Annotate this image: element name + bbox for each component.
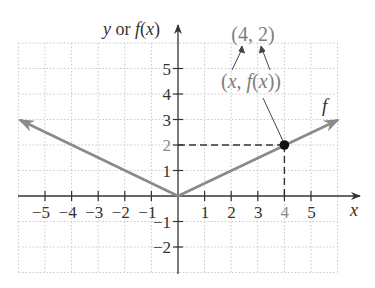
point-annotation: (4, 2) bbox=[231, 23, 274, 46]
x-tick-label: −4 bbox=[59, 203, 78, 222]
axes bbox=[18, 25, 360, 274]
x-tick-label-highlighted: 4 bbox=[281, 203, 290, 222]
y-tick-label: 1 bbox=[163, 162, 172, 181]
y-tick-label: 5 bbox=[163, 60, 172, 79]
arrowhead-icon bbox=[260, 46, 266, 53]
x-tick-label: 5 bbox=[307, 203, 316, 222]
x-tick-label: −2 bbox=[112, 203, 130, 222]
function-curve bbox=[20, 120, 338, 196]
x-tick-label: 1 bbox=[201, 203, 210, 222]
general-point-annotation: (x, f(x)) bbox=[221, 70, 281, 93]
y-tick-label: 3 bbox=[163, 111, 172, 130]
x-tick-label: 3 bbox=[254, 203, 263, 222]
x-tick-label: 2 bbox=[227, 203, 236, 222]
pointer-to-point bbox=[263, 98, 283, 141]
y-tick-labels: 5 4 3 2 1 −1 −2 bbox=[153, 60, 172, 258]
y-tick-label: −2 bbox=[153, 238, 171, 257]
y-axis-title: y or f(x) bbox=[101, 19, 160, 40]
x-tick-label: −5 bbox=[32, 203, 50, 222]
x-axis-title: x bbox=[349, 200, 358, 220]
y-tick-label: −1 bbox=[153, 213, 171, 232]
y-tick-label: 4 bbox=[163, 85, 172, 104]
function-label: f bbox=[322, 95, 330, 116]
x-tick-label: −3 bbox=[85, 203, 103, 222]
arrowhead-icon bbox=[239, 46, 245, 53]
highlighted-point bbox=[280, 140, 290, 150]
curve-left-branch bbox=[20, 120, 178, 196]
absolute-value-chart: −5 −4 −3 −2 −1 1 2 3 4 5 5 4 3 2 1 −1 −2… bbox=[0, 0, 375, 288]
arrow-x-coordinate bbox=[232, 49, 242, 70]
y-tick-label-highlighted: 2 bbox=[163, 136, 172, 155]
x-tick-labels: −5 −4 −3 −2 −1 1 2 3 4 5 bbox=[32, 203, 316, 222]
